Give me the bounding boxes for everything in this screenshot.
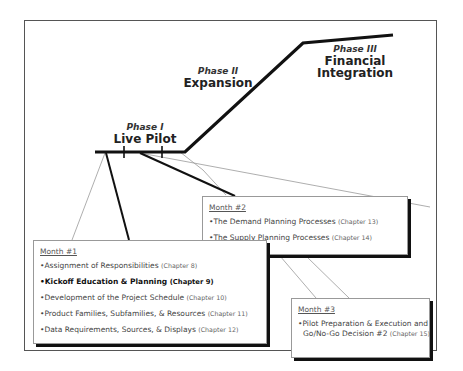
phase-3-label: Phase III Financial Integration [310, 44, 400, 79]
phase-1-name: Live Pilot [105, 133, 185, 145]
list-item: •Development of the Project Schedule (Ch… [40, 293, 260, 303]
month-2-title: Month #2 [209, 203, 401, 212]
month-3-title: Month #3 [298, 305, 423, 314]
list-item: •Pilot Preparation & Execution andGo/No-… [298, 319, 423, 339]
month-1-title: Month #1 [40, 247, 260, 256]
list-item-highlighted: •Kickoff Education & Planning (Chapter 9… [40, 277, 260, 287]
phase-3-name-line2: Integration [310, 67, 400, 79]
month-1-box: Month #1 •Assignment of Responsibilities… [33, 240, 267, 344]
list-item: •Product Families, Subfamilies, & Resour… [40, 309, 260, 319]
phase-2-name: Expansion [178, 77, 258, 89]
phase-1-label: Phase I Live Pilot [105, 122, 185, 145]
list-item: •Assignment of Responsibilities (Chapter… [40, 261, 260, 271]
list-item: •Data Requirements, Sources, & Displays … [40, 325, 260, 335]
phase-2-label: Phase II Expansion [178, 66, 258, 89]
list-item: •The Demand Planning Processes (Chapter … [209, 217, 401, 227]
month-3-box: Month #3 •Pilot Preparation & Execution … [291, 298, 430, 358]
